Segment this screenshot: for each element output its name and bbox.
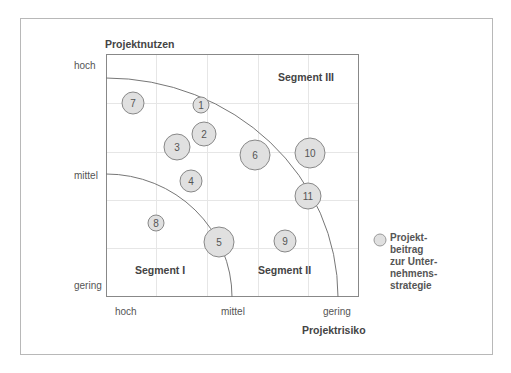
svg-text:9: 9 [282,236,288,247]
project-bubble-10: 10 [295,138,325,168]
segment-1-label: Segment I [135,264,185,276]
project-bubble-4: 4 [180,170,202,192]
segment-3-label: Segment III [278,71,334,83]
grid [106,54,359,297]
project-bubble-7: 7 [122,92,144,114]
project-bubble-8: 8 [148,215,164,231]
project-bubble-9: 9 [274,230,296,252]
svg-text:4: 4 [188,176,194,187]
legend-label: Projekt- beitrag zur Unter- nehmens- str… [390,232,437,292]
svg-text:6: 6 [252,150,258,161]
svg-text:5: 5 [216,237,222,248]
svg-text:2: 2 [201,129,207,140]
svg-text:11: 11 [303,191,314,202]
legend-bubble-icon [374,234,386,246]
svg-text:8: 8 [153,218,159,229]
project-bubble-2: 2 [192,122,216,146]
svg-text:3: 3 [174,142,180,153]
svg-text:1: 1 [198,100,204,111]
project-bubble-3: 3 [164,134,190,160]
svg-text:7: 7 [130,98,136,109]
project-bubble-5: 5 [204,227,234,257]
plot-area [107,55,359,297]
segment-2-label: Segment II [258,264,311,276]
project-bubbles: 1234567891011 [122,92,325,257]
svg-text:10: 10 [304,148,316,159]
portfolio-chart: 1234567891011 [0,0,511,373]
project-bubble-11: 11 [295,183,321,209]
project-bubble-1: 1 [193,97,209,113]
project-bubble-6: 6 [240,140,270,170]
